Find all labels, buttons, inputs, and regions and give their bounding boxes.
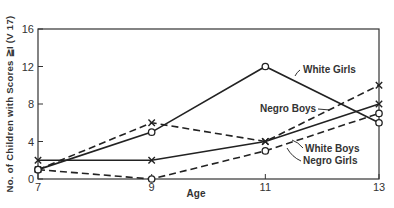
circle-marker-icon xyxy=(376,120,382,126)
circle-marker-icon xyxy=(262,63,268,69)
circle-marker-icon xyxy=(376,110,382,116)
y-tick-label: 12 xyxy=(22,61,34,73)
annotation-white-boys: White Boys xyxy=(305,143,360,154)
y-tick-label: 0 xyxy=(28,173,34,185)
circle-marker-icon xyxy=(148,176,154,182)
annotation-white-girls: White Girls xyxy=(303,64,356,75)
x-axis-label: Age xyxy=(187,188,206,199)
y-axis-label: No. of Children with Scores ≧I (V 17) xyxy=(4,16,15,193)
circle-marker-icon xyxy=(35,166,41,172)
x-tick-label: 13 xyxy=(373,181,385,193)
circle-marker-icon xyxy=(262,148,268,154)
circle-marker-icon xyxy=(148,129,154,135)
x-tick-label: 11 xyxy=(260,181,271,193)
annotation-negro-girls: Negro Girls xyxy=(303,155,358,166)
x-tick-label: 7 xyxy=(35,181,41,193)
y-tick-label: 4 xyxy=(28,136,34,148)
y-tick-label: 8 xyxy=(28,98,34,110)
line-chart: 0481216 791113 Age No. of Children with … xyxy=(0,0,394,208)
annotation-negro-boys: Negro Boys xyxy=(260,103,317,114)
x-axis: 791113 xyxy=(35,174,385,193)
y-tick-label: 16 xyxy=(22,23,34,35)
